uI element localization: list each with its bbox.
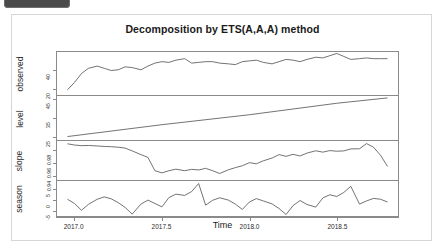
x-axis-label: Time xyxy=(12,220,433,230)
panel-observed xyxy=(56,51,399,96)
ytick-level-45: 45 xyxy=(45,99,51,113)
ytick-level-25: 25 xyxy=(45,137,51,151)
series-slope xyxy=(57,141,398,180)
decomposition-panels xyxy=(56,51,399,217)
panel-season xyxy=(56,181,399,217)
ytick-slope-098: 0.98 xyxy=(46,150,52,170)
x-axis-line xyxy=(56,217,399,218)
ytick-observed-40: 40 xyxy=(45,70,51,84)
series-season xyxy=(57,181,398,216)
panel-label-slope: slope xyxy=(12,141,26,181)
window-tab-handle[interactable] xyxy=(4,0,70,8)
chart-figure: Decomposition by ETS(A,A,A) method obser… xyxy=(11,14,432,241)
panel-level xyxy=(56,96,399,141)
panel-label-observed: observed xyxy=(12,51,26,96)
series-level xyxy=(57,96,398,140)
ytick-season-5: 5 xyxy=(45,189,51,202)
series-observed xyxy=(57,52,398,95)
panel-slope xyxy=(56,141,399,181)
ytick-level-35: 35 xyxy=(45,118,51,132)
panel-label-level: level xyxy=(12,96,26,141)
chart-title: Decomposition by ETS(A,A,A) method xyxy=(12,23,433,35)
panel-label-season: season xyxy=(12,181,26,217)
